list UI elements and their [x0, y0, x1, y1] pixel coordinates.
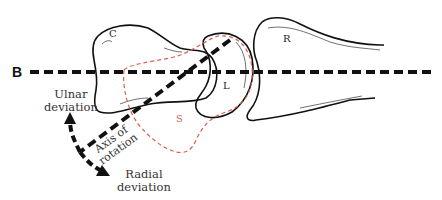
reference-line-label: B: [12, 64, 22, 80]
ulnar-deviation-arrow: [70, 120, 80, 152]
capitate-label: C: [109, 28, 117, 39]
scaphoid-label: S: [176, 113, 183, 124]
radial-deviation-label: Radial deviation: [117, 168, 171, 194]
lunate-label: L: [223, 80, 230, 91]
wrist-diagram: B C L R S Ulnar deviation Radial deviati…: [0, 0, 442, 200]
radius-bone: [247, 18, 384, 121]
radius-label: R: [283, 33, 291, 44]
scaphoid-outline: [124, 36, 253, 153]
ulnar-deviation-label: Ulnar deviation: [44, 88, 98, 114]
